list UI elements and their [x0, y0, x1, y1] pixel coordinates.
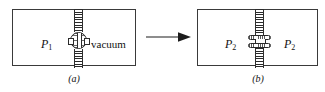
valve-closed-a[interactable] — [68, 32, 89, 49]
caption-b: (b) — [238, 74, 278, 84]
valve-cap-left-icon — [68, 38, 74, 45]
pressure-label-p1: P1 — [41, 38, 52, 52]
panel-b-container: P2 P2 — [197, 9, 318, 66]
pressure-label-p2-left: P2 — [225, 38, 236, 52]
valve-open-b[interactable] — [248, 35, 271, 48]
valve-collar-bottom-icon — [248, 43, 271, 48]
valve-cap-right-icon — [84, 38, 90, 45]
free-expansion-figure: P1 vacuum P2 P2 (a) (b) — [0, 0, 325, 92]
process-arrow-icon — [146, 30, 192, 44]
valve-stem-icon — [77, 33, 82, 48]
vacuum-label: vacuum — [91, 39, 126, 50]
panel-a-container: P1 vacuum — [12, 9, 136, 66]
pressure-label-p2-right: P2 — [284, 38, 295, 52]
caption-a: (a) — [54, 74, 94, 84]
